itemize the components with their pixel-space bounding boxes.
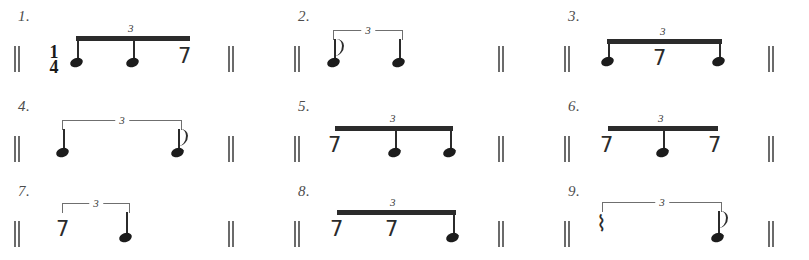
notehead [711,55,726,68]
notehead [326,56,341,69]
close-barline [768,46,775,72]
notehead [600,55,615,68]
notehead [445,231,460,244]
triplet-bracket: 3 [62,120,182,130]
eighth-flag [180,129,189,146]
notehead [391,56,406,69]
exercise-2: 2. 3 [280,0,550,88]
notehead [69,56,84,69]
tuplet-number: 3 [655,197,669,208]
exercise-8: 8. 3 7 7 [280,175,550,260]
eighth-flag [336,39,345,56]
notehead [710,231,725,244]
eighth-rest: 7 [330,219,343,240]
eighth-rest: 7 [56,219,69,240]
tuplet-number: 3 [361,25,375,36]
exercise-number: 5. [298,98,310,115]
tuplet-number: 3 [89,198,103,209]
notehead [125,56,140,69]
rhythm-worksheet: 1. 1 4 3 7 2. 3 3. 3 7 [0,0,809,260]
tuplet-number: 3 [390,113,396,124]
tuplet-number: 3 [115,115,129,126]
triplet-bracket: 3 [602,202,722,212]
exercise-9: 9. 3 ⌇ [550,175,809,260]
beam [607,39,722,44]
exercise-1: 1. 1 4 3 7 [0,0,270,88]
exercise-number: 4. [18,98,30,115]
notehead [170,146,185,159]
close-barline [228,136,235,162]
time-signature: 1 4 [46,45,62,75]
close-barline [228,221,235,247]
eighth-rest: 7 [600,135,613,156]
exercise-3: 3. 3 7 [550,0,809,88]
exercise-number: 3. [568,8,580,25]
eighth-rest: 7 [385,219,398,240]
exercise-number: 8. [298,183,310,200]
notehead [118,231,133,244]
open-barline [294,136,301,162]
eighth-flag [720,211,729,228]
open-barline [564,46,571,72]
eighth-rest: 7 [708,135,721,156]
triplet-bracket: 3 [62,203,130,213]
time-signature-denominator: 4 [46,60,62,75]
exercise-number: 1. [18,8,30,25]
close-barline [498,136,505,162]
open-barline [14,136,21,162]
tuplet-number: 3 [658,113,664,124]
exercise-number: 2. [298,8,310,25]
eighth-rest: 7 [328,135,341,156]
close-barline [768,221,775,247]
beam [335,126,453,131]
close-barline [498,221,505,247]
open-barline [294,46,301,72]
exercise-4: 4. 3 [0,90,270,178]
close-barline [498,46,505,72]
exercise-number: 6. [568,98,580,115]
quarter-rest: ⌇ [596,213,607,235]
open-barline [14,46,21,72]
exercise-5: 5. 3 7 [280,90,550,178]
exercise-6: 6. 3 7 7 [550,90,809,178]
tuplet-number: 3 [128,23,134,34]
exercise-7: 7. 3 7 [0,175,270,260]
notehead [55,146,70,159]
exercise-number: 7. [18,183,30,200]
tuplet-number: 3 [660,26,666,37]
close-barline [228,46,235,72]
beam [337,210,456,215]
exercise-number: 9. [568,183,580,200]
open-barline [294,221,301,247]
eighth-rest: 7 [653,48,666,69]
close-barline [768,136,775,162]
notehead [655,146,670,159]
notehead [387,146,402,159]
tuplet-number: 3 [390,197,396,208]
open-barline [14,221,21,247]
eighth-rest: 7 [178,46,191,67]
open-barline [564,221,571,247]
open-barline [564,136,571,162]
notehead [442,146,457,159]
